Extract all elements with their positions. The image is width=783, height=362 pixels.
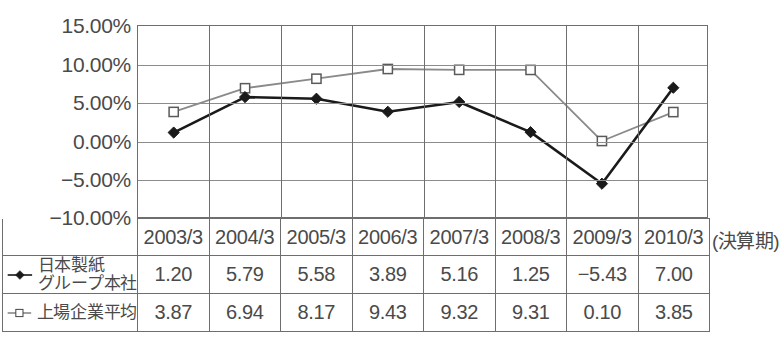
gridline-horizontal	[138, 142, 707, 143]
y-tick-label-5: 5.00%	[0, 91, 131, 115]
legend-label-line1: 日本製紙	[38, 257, 137, 275]
gridline-vertical	[281, 26, 282, 217]
data-point-diamond	[382, 106, 393, 117]
table-row: 日本製紙 グループ本社 1.20 5.79 5.58 3.89 5.16 1.2…	[3, 256, 710, 294]
cell-s1-2008: 1.25	[495, 256, 567, 294]
gridline-horizontal	[138, 180, 707, 181]
gridline-vertical	[424, 26, 425, 217]
cell-s2-2008: 9.31	[495, 294, 567, 332]
table-row: 上場企業平均 3.87 6.94 8.17 9.43 9.32 9.31 0.1…	[3, 294, 710, 332]
data-point-square	[383, 64, 392, 73]
column-header-2006: 2006/3	[352, 219, 424, 256]
table-corner-cell	[3, 219, 138, 256]
column-header-2005: 2005/3	[281, 219, 353, 256]
column-header-2003: 2003/3	[138, 219, 210, 256]
legend-item-nippon-paper: 日本製紙 グループ本社	[3, 256, 138, 294]
x-axis-caption: (決算期)	[712, 226, 779, 253]
cell-s1-2009: −5.43	[567, 256, 639, 294]
data-point-square	[669, 107, 678, 116]
filled-diamond-marker-icon	[7, 265, 33, 285]
cell-s2-2003: 3.87	[138, 294, 210, 332]
y-tick-label-0: 0.00%	[0, 130, 131, 154]
cell-s1-2005: 5.58	[281, 256, 353, 294]
legend-label-listed-average: 上場企業平均	[37, 304, 137, 322]
gridline-vertical	[566, 26, 567, 217]
gridline-vertical	[638, 26, 639, 217]
data-point-square	[169, 107, 178, 116]
data-point-square	[312, 74, 321, 83]
column-header-2009: 2009/3	[567, 219, 639, 256]
cell-s2-2006: 9.43	[352, 294, 424, 332]
cell-s1-2010: 7.00	[638, 256, 710, 294]
gridline-vertical	[209, 26, 210, 217]
data-point-square	[526, 65, 535, 74]
y-tick-label-15: 15.00%	[0, 14, 131, 38]
gridline-vertical	[352, 26, 353, 217]
legend-label-line2: グループ本社	[38, 275, 137, 293]
cell-s2-2010: 3.85	[638, 294, 710, 332]
column-header-2008: 2008/3	[495, 219, 567, 256]
cell-s2-2007: 9.32	[424, 294, 496, 332]
cell-s2-2005: 8.17	[281, 294, 353, 332]
gridline-vertical	[495, 26, 496, 217]
data-point-diamond	[168, 127, 179, 138]
plot-area	[137, 25, 708, 218]
chart-figure: 15.00% 10.00% 5.00% 0.00% −5.00% −10.00%…	[0, 0, 783, 362]
legend-label-line1: 上場企業平均	[37, 304, 137, 322]
y-tick-label-10: 10.00%	[0, 53, 131, 77]
data-point-diamond	[454, 96, 465, 107]
legend-label-nippon-paper: 日本製紙 グループ本社	[38, 257, 137, 293]
column-header-2004: 2004/3	[209, 219, 281, 256]
cell-s2-2004: 6.94	[209, 294, 281, 332]
data-table: 2003/3 2004/3 2005/3 2006/3 2007/3 2008/…	[2, 218, 709, 348]
open-square-marker-icon	[7, 303, 32, 323]
column-header-2007: 2007/3	[424, 219, 496, 256]
table-header-row: 2003/3 2004/3 2005/3 2006/3 2007/3 2008/…	[3, 219, 710, 256]
cell-s1-2007: 5.16	[424, 256, 496, 294]
legend-item-listed-average: 上場企業平均	[3, 294, 138, 332]
gridline-horizontal	[138, 65, 707, 66]
gridline-horizontal	[138, 103, 707, 104]
cell-s2-2009: 0.10	[567, 294, 639, 332]
cell-s1-2004: 5.79	[209, 256, 281, 294]
cell-s1-2003: 1.20	[138, 256, 210, 294]
data-point-square	[455, 65, 464, 74]
y-tick-label-neg5: −5.00%	[0, 168, 131, 192]
cell-s1-2006: 3.89	[352, 256, 424, 294]
column-header-2010: 2010/3	[638, 219, 710, 256]
